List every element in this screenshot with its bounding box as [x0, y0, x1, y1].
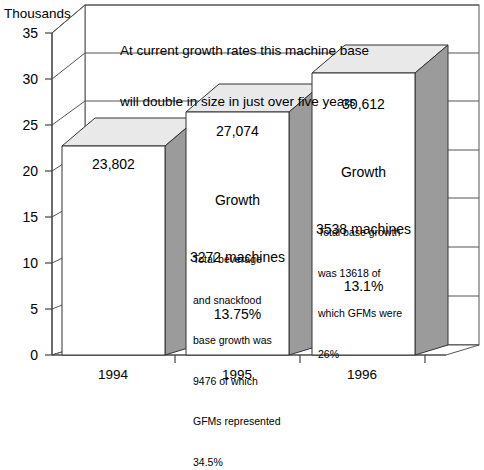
- bar-1995-growth-heading: Growth: [186, 191, 289, 210]
- y-tick-label-25: 25: [0, 117, 38, 133]
- bar-1995-note-line-2: and snackfood: [193, 294, 289, 308]
- chart-title-line-1: At current growth rates this machine bas…: [120, 42, 420, 59]
- y-tick-label-30: 30: [0, 71, 38, 87]
- y-axis-unit-label: Thousands: [4, 6, 71, 21]
- bar-1996-note-line-1: Total base growth: [318, 226, 415, 240]
- y-tick-label-20: 20: [0, 163, 38, 179]
- bar-1995-value-label: 27,074: [186, 123, 289, 139]
- bar-1996-growth-heading: Growth: [312, 163, 415, 182]
- bar-1996-note: Total base growth was 13618 of which GFM…: [318, 199, 415, 388]
- y-axis: [45, 33, 52, 355]
- x-tick-label-1994: 1994: [58, 367, 168, 382]
- bar-1994[interactable]: [62, 118, 198, 355]
- bar-1995-note-line-3: base growth was: [193, 334, 289, 348]
- y-tick-label-5: 5: [0, 301, 38, 317]
- bar-1995-note: Total beverage and snackfood base growth…: [193, 226, 289, 470]
- y-tick-label-35: 35: [0, 25, 38, 41]
- bar-1996-note-line-3: which GFMs were: [318, 307, 415, 321]
- bar-1996-value-label: 30,612: [312, 96, 415, 112]
- bar-1995-note-line-6: 34.5%: [193, 456, 289, 470]
- bar-1995-note-line-4: 9476 of which: [193, 375, 289, 389]
- bar-1996-note-line-4: 26%: [318, 348, 415, 362]
- y-tick-label-15: 15: [0, 209, 38, 225]
- bar-1995-note-line-5: GFMs represented: [193, 415, 289, 429]
- y-tick-label-0: 0: [0, 347, 38, 363]
- bar-1996-note-line-2: was 13618 of: [318, 267, 415, 281]
- bar-1995-note-line-1: Total beverage: [193, 253, 289, 267]
- bar-1994-value-label: 23,802: [62, 156, 165, 172]
- y-tick-label-10: 10: [0, 255, 38, 271]
- bar-1994-front: [62, 146, 165, 355]
